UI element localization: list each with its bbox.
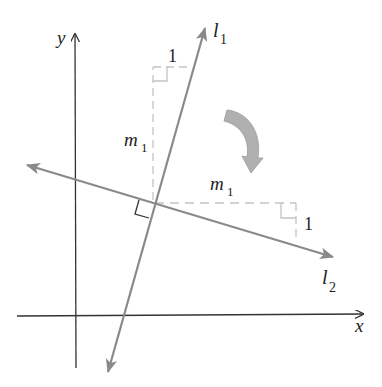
lower-run-subscript: 1 [227,184,234,199]
lower-rise-label: 1 [304,214,313,234]
clockwise-rotation-arrow-icon [224,110,263,173]
upper-slope-triangle [153,67,190,200]
line-l1 [108,28,205,372]
upper-rise-label: m [124,129,138,150]
line-l2 [27,165,333,257]
line-l2-subscript: 2 [329,280,336,295]
x-axis-label: x [354,315,364,336]
line-l1-subscript: 1 [220,32,227,47]
y-axis-label: y [55,27,66,48]
upper-right-angle-marker [153,67,167,81]
upper-run-label: 1 [168,46,177,66]
lower-slope-triangle [155,203,296,240]
y-axis [75,34,76,368]
x-axis [17,314,363,316]
lower-run-label: m [210,173,224,194]
upper-rise-subscript: 1 [141,140,148,155]
diagram-canvas: y x l 1 l 2 1 m 1 m 1 1 [0,0,382,387]
lower-right-angle-marker [281,203,296,218]
perpendicular-marker [135,200,149,218]
line-l2-label: l [322,266,328,288]
line-l1-label: l [213,19,219,41]
